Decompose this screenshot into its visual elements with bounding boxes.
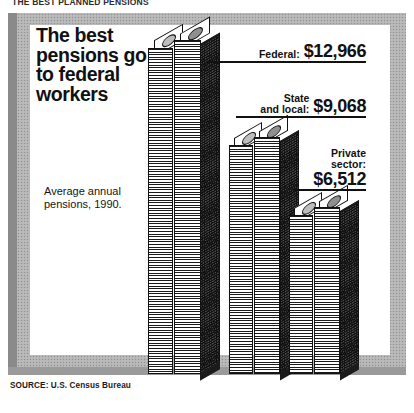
- stack-side-face: [340, 200, 359, 374]
- stack-side-face: [200, 32, 220, 374]
- frame-left-rail: [8, 13, 17, 375]
- stack-front-bundle: [289, 215, 313, 374]
- stack-front-bundle: [314, 207, 340, 374]
- callout-label-line2: and local:: [260, 103, 309, 115]
- value-callout-federal: Federal: $12,966: [206, 42, 366, 63]
- source-note: SOURCE: U.S. Census Bureau: [10, 381, 131, 390]
- callout-label: Federal:: [259, 49, 300, 60]
- callout-value: $9,068: [313, 97, 366, 115]
- callout-rule: [206, 61, 366, 63]
- chart-subtitle: Average annual pensions, 1990.: [44, 185, 162, 211]
- callout-rule: [236, 116, 366, 118]
- page-title: The best pensions go to federal workers: [36, 26, 154, 104]
- stack-front-bundle: [148, 48, 173, 374]
- callout-value: $6,512: [313, 170, 366, 188]
- callout-rule: [294, 189, 366, 191]
- bar-federal: [146, 22, 224, 374]
- stack-front-bundle: [174, 40, 201, 374]
- stack-front-bundle: [229, 145, 253, 374]
- callout-label: Private sector:: [331, 148, 366, 170]
- kicker-headline: THE BEST PLANNED PENSIONS: [12, 0, 149, 5]
- value-callout-state-and-local: State and local: $9,068: [236, 93, 366, 118]
- callout-value: $12,966: [304, 42, 366, 60]
- callout-label: State and local:: [260, 93, 309, 115]
- bar-private-sector: [288, 190, 362, 374]
- value-callout-private-sector: Private sector: $6,512: [294, 148, 366, 191]
- stack-front-bundle: [254, 137, 280, 374]
